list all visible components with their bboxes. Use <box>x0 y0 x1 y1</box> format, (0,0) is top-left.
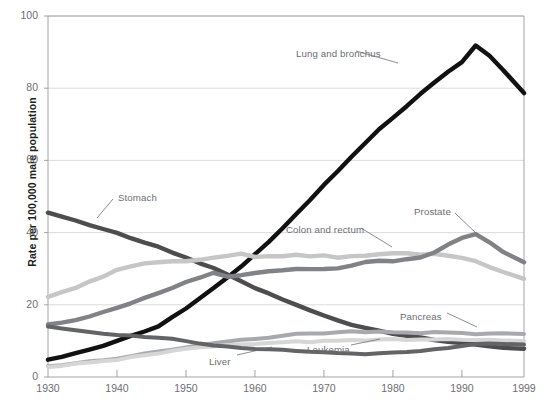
chart-plot-area <box>0 0 557 400</box>
prostate-leader <box>455 213 478 235</box>
series-label-pancreas: Pancreas <box>400 311 442 322</box>
y-tick-label-60: 60 <box>4 153 38 165</box>
series-label-leukemia: Leukemia <box>307 344 350 355</box>
x-tick-label-1990: 1990 <box>432 382 492 394</box>
colon-leader <box>361 228 392 247</box>
series-label-prostate: Prostate <box>414 206 451 217</box>
x-tick-label-1999: 1999 <box>494 382 554 394</box>
series-label-colon-and-rectum: Colon and rectum <box>286 224 364 235</box>
y-tick-label-100: 100 <box>4 9 38 21</box>
leader-lines <box>97 51 478 355</box>
pancreas-leader <box>447 313 477 327</box>
series-line-prostate <box>48 234 524 324</box>
gridlines <box>48 16 524 305</box>
chart-figure: Rate per 100,000 male population 0204060… <box>0 0 557 400</box>
series-lines <box>48 46 524 367</box>
series-label-stomach: Stomach <box>118 192 157 203</box>
series-label-lung-and-bronchus: Lung and bronchus <box>296 48 381 59</box>
x-tick-label-1930: 1930 <box>18 382 78 394</box>
x-tick-label-1950: 1950 <box>156 382 216 394</box>
y-tick-label-40: 40 <box>4 226 38 238</box>
x-tick-label-1980: 1980 <box>363 382 423 394</box>
y-tick-label-0: 0 <box>4 370 38 382</box>
x-tick-label-1940: 1940 <box>87 382 147 394</box>
stomach-leader <box>97 199 113 218</box>
x-tick-marks <box>117 370 462 377</box>
x-tick-label-1970: 1970 <box>294 382 354 394</box>
x-tick-label-1960: 1960 <box>225 382 285 394</box>
series-label-liver: Liver <box>209 356 231 367</box>
series-line-colon-and-rectum <box>48 253 524 297</box>
y-tick-label-80: 80 <box>4 81 38 93</box>
y-tick-label-20: 20 <box>4 298 38 310</box>
